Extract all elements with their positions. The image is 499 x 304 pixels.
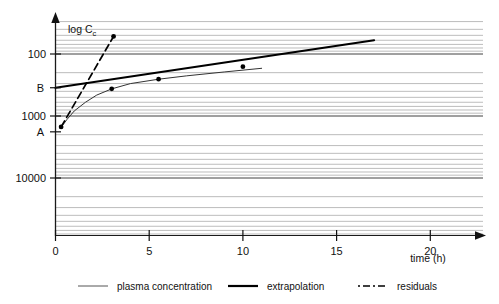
x-axis-title: time (h) [410,252,446,264]
y-tick-label: 100 [28,48,46,60]
x-tick-label: 15 [330,245,342,257]
y-tick-label: 1000 [22,110,46,122]
data-point-marker [111,34,116,39]
data-point-marker [241,64,246,69]
x-tick-label: 0 [52,245,58,257]
semilog-plasma-concentration-chart: 10100100010000 05101520 log Cc time (h) … [0,0,499,304]
legend-label-plasma-concentration: plasma concentration [117,281,212,292]
annotation-label-b: B [37,82,44,94]
y-tick-label: 10000 [15,172,46,184]
legend-label-extrapolation: extrapolation [267,281,324,292]
chart-figure: 10100100010000 05101520 log Cc time (h) … [0,0,499,304]
x-tick-label: 5 [146,245,152,257]
y-axis-title-text: log C [68,23,93,35]
data-point-marker [156,77,161,82]
y-axis-title-subscript: c [93,29,97,38]
data-point-marker [59,125,64,130]
legend-label-residuals: residuals [397,281,437,292]
data-point-marker [109,86,114,91]
x-tick-label: 10 [237,245,249,257]
annotation-label-a: A [37,126,45,138]
